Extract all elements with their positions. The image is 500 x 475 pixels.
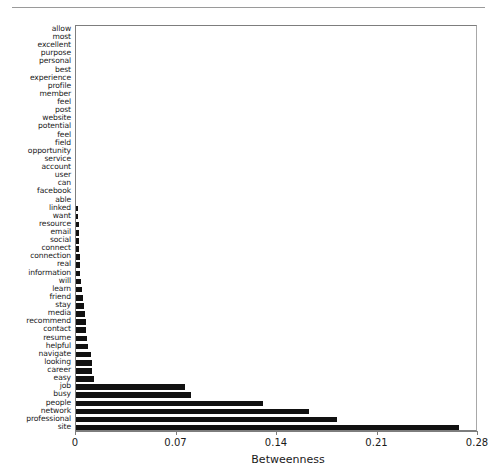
bar-row bbox=[76, 375, 478, 383]
bar-row bbox=[76, 302, 478, 310]
x-axis-tick-mark bbox=[75, 431, 76, 435]
bar-row bbox=[76, 367, 478, 375]
bar-row bbox=[76, 400, 478, 408]
bar-row bbox=[76, 188, 478, 196]
bar-row bbox=[76, 343, 478, 351]
bar bbox=[76, 327, 86, 333]
y-axis-label: site bbox=[0, 423, 71, 431]
header-divider bbox=[12, 7, 485, 8]
bar-row bbox=[76, 245, 478, 253]
bar-row bbox=[76, 261, 478, 269]
x-axis-tick-mark bbox=[477, 431, 478, 435]
bar-row bbox=[76, 310, 478, 318]
bar-row bbox=[76, 229, 478, 237]
bar-row bbox=[76, 164, 478, 172]
bar-row bbox=[76, 270, 478, 278]
bar-row bbox=[76, 383, 478, 391]
bar-row bbox=[76, 318, 478, 326]
bar bbox=[76, 392, 191, 398]
bar-row bbox=[76, 335, 478, 343]
bar-row bbox=[76, 132, 478, 140]
bar-row bbox=[76, 326, 478, 334]
x-axis-title-text: Betweenness bbox=[251, 453, 324, 466]
bar-row bbox=[76, 416, 478, 424]
bar bbox=[76, 271, 80, 277]
bar-row bbox=[76, 172, 478, 180]
bar bbox=[76, 368, 92, 374]
bar-row bbox=[76, 91, 478, 99]
bar bbox=[76, 230, 79, 236]
bar-series bbox=[76, 26, 478, 432]
bar bbox=[76, 384, 185, 390]
x-axis-tick-label: 0.21 bbox=[365, 437, 387, 448]
bar-row bbox=[76, 351, 478, 359]
x-axis-tick-mark bbox=[377, 431, 378, 435]
bar bbox=[76, 222, 79, 228]
x-axis-tick-mark bbox=[276, 431, 277, 435]
bar bbox=[76, 319, 86, 325]
bar-row bbox=[76, 213, 478, 221]
bar-row bbox=[76, 180, 478, 188]
bar-row bbox=[76, 42, 478, 50]
bar-row bbox=[76, 83, 478, 91]
bar-row bbox=[76, 205, 478, 213]
bar-row bbox=[76, 75, 478, 83]
bar-row bbox=[76, 237, 478, 245]
bar bbox=[76, 336, 87, 342]
bar-row bbox=[76, 34, 478, 42]
y-axis-category-labels: allowmostexcellentpurposepersonalbestexp… bbox=[0, 25, 71, 431]
bar-row bbox=[76, 294, 478, 302]
bar bbox=[76, 254, 80, 260]
x-axis-tick-label: 0 bbox=[72, 437, 78, 448]
bar-row bbox=[76, 107, 478, 115]
bar bbox=[76, 409, 309, 415]
bar bbox=[76, 206, 78, 212]
x-axis-tick-label: 0.14 bbox=[265, 437, 287, 448]
bar-row bbox=[76, 221, 478, 229]
bar bbox=[76, 425, 459, 431]
x-axis-tick-label: 0.07 bbox=[164, 437, 186, 448]
bar bbox=[76, 303, 84, 309]
bar-row bbox=[76, 123, 478, 131]
bar bbox=[76, 376, 94, 382]
bar bbox=[76, 311, 85, 317]
bar bbox=[76, 295, 83, 301]
bar-row bbox=[76, 50, 478, 58]
bar bbox=[76, 214, 78, 220]
bar bbox=[76, 352, 91, 358]
x-axis-tick-mark bbox=[176, 431, 177, 435]
bar-row bbox=[76, 253, 478, 261]
bar bbox=[76, 360, 92, 366]
bar-row bbox=[76, 278, 478, 286]
bar-row bbox=[76, 156, 478, 164]
bar-row bbox=[76, 391, 478, 399]
bar bbox=[76, 262, 80, 268]
bar bbox=[76, 246, 79, 252]
bar-row bbox=[76, 67, 478, 75]
bar bbox=[76, 417, 337, 423]
chart-figure: allowmostexcellentpurposepersonalbestexp… bbox=[0, 0, 500, 475]
bar bbox=[76, 401, 263, 407]
bar-row bbox=[76, 408, 478, 416]
bar-row bbox=[76, 58, 478, 66]
x-axis-tick-label: 0.28 bbox=[466, 437, 488, 448]
bar bbox=[76, 279, 81, 285]
bar-row bbox=[76, 99, 478, 107]
bar-row bbox=[76, 26, 478, 34]
bar-row bbox=[76, 286, 478, 294]
bar-row bbox=[76, 359, 478, 367]
bar-row bbox=[76, 115, 478, 123]
plot-area bbox=[75, 25, 477, 431]
bar bbox=[76, 344, 88, 350]
bar-row bbox=[76, 140, 478, 148]
bar bbox=[76, 238, 79, 244]
x-axis-title: Betweenness bbox=[0, 453, 500, 466]
bar bbox=[76, 287, 82, 293]
bar-row bbox=[76, 148, 478, 156]
bar-row bbox=[76, 197, 478, 205]
